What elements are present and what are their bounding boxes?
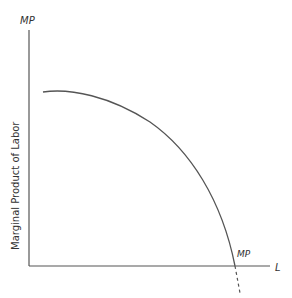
mp-curve-dashed-extension — [235, 266, 240, 293]
mp-curve — [43, 91, 235, 266]
mp-chart: MP L MP Marginal Product of Labor — [0, 0, 292, 298]
curve-label: MP — [237, 249, 251, 259]
chart-container: MP L MP Marginal Product of Labor — [0, 0, 292, 298]
y-axis-top-label: MP — [20, 15, 36, 26]
y-axis-label: Marginal Product of Labor — [10, 121, 21, 250]
x-axis-label: L — [275, 262, 281, 273]
